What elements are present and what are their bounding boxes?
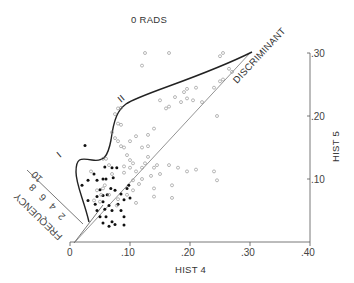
open-point xyxy=(117,122,120,125)
open-point xyxy=(213,86,216,89)
open-point xyxy=(135,135,138,138)
open-point xyxy=(123,171,126,174)
open-point xyxy=(195,168,198,171)
filled-point xyxy=(123,198,126,201)
open-point xyxy=(201,101,204,104)
open-point xyxy=(213,170,216,173)
open-point xyxy=(156,164,159,167)
filled-point xyxy=(99,215,102,218)
filled-point xyxy=(109,187,112,190)
open-point xyxy=(126,154,129,157)
open-point xyxy=(171,196,174,199)
open-point xyxy=(195,86,198,89)
filled-point xyxy=(111,209,114,212)
open-point xyxy=(147,155,150,158)
filled-point xyxy=(120,209,123,212)
filled-point xyxy=(81,184,84,187)
filled-point xyxy=(123,215,126,218)
y-tick-label: .10 xyxy=(311,174,325,185)
open-point xyxy=(135,170,138,173)
filled-point xyxy=(108,204,111,207)
open-point xyxy=(102,187,105,190)
filled-point xyxy=(111,166,114,169)
filled-point xyxy=(102,194,105,197)
open-point xyxy=(141,64,144,67)
open-point xyxy=(123,146,126,149)
open-point xyxy=(99,200,102,203)
open-point xyxy=(174,96,177,99)
open-point xyxy=(120,123,123,126)
open-point xyxy=(159,173,162,176)
filled-point xyxy=(93,173,96,176)
open-point xyxy=(108,164,111,167)
open-point xyxy=(103,184,106,187)
curve-label-ii: II xyxy=(115,92,127,104)
open-point xyxy=(129,140,132,143)
open-point xyxy=(165,107,168,110)
filled-point xyxy=(99,188,102,191)
open-point xyxy=(186,97,189,100)
open-point xyxy=(159,99,162,102)
filled-point xyxy=(105,215,108,218)
open-point xyxy=(186,170,189,173)
open-point xyxy=(120,145,123,148)
open-point xyxy=(228,67,231,70)
open-point xyxy=(168,52,171,55)
open-point xyxy=(219,55,222,58)
x-tick-label: .20 xyxy=(181,247,195,258)
open-point xyxy=(141,178,144,181)
x-tick-label: .30 xyxy=(241,247,255,258)
chart-title: 0 RADS xyxy=(131,14,167,25)
open-point xyxy=(222,52,225,55)
open-point xyxy=(192,99,195,102)
open-point xyxy=(180,101,183,104)
x-axis-label: HIST 4 xyxy=(175,264,206,275)
filled-point xyxy=(96,195,99,198)
open-point xyxy=(222,78,225,81)
open-point xyxy=(129,166,132,169)
open-point xyxy=(117,107,120,110)
discriminant-line xyxy=(74,53,250,243)
filled-point xyxy=(114,189,117,192)
open-point xyxy=(141,166,144,169)
open-point xyxy=(168,164,171,167)
filled-point xyxy=(127,184,130,187)
open-point xyxy=(126,193,129,196)
x-tick-label: .10 xyxy=(121,247,135,258)
open-point xyxy=(93,199,96,202)
filled-point xyxy=(105,178,108,181)
open-point xyxy=(144,162,147,165)
x-tick-label: 0 xyxy=(67,247,73,258)
frequency-tick-label: 2 xyxy=(55,210,67,222)
filled-point xyxy=(96,209,99,212)
filled-point xyxy=(126,187,129,190)
y-tick-label: .20 xyxy=(311,111,325,122)
y-axis: .30 .20 .10 HIST 5 xyxy=(307,48,341,242)
filled-point xyxy=(87,179,90,182)
open-point xyxy=(216,179,219,182)
open-point xyxy=(183,91,186,94)
open-point xyxy=(129,159,132,162)
open-point xyxy=(147,145,150,148)
data-points xyxy=(81,52,234,228)
discriminant-label: DISCRIMINANT xyxy=(230,25,287,85)
filled-point xyxy=(114,223,117,226)
open-point xyxy=(186,87,189,90)
filled-point xyxy=(129,196,132,199)
frequency-tick-label: 6 xyxy=(36,191,48,203)
frequency-tick-label: 4 xyxy=(46,200,58,212)
filled-point xyxy=(102,222,105,225)
filled-point xyxy=(123,224,126,227)
open-point xyxy=(96,189,99,192)
open-point xyxy=(153,187,156,190)
filled-point xyxy=(108,225,111,228)
open-point xyxy=(105,157,108,160)
open-point xyxy=(144,52,147,55)
open-point xyxy=(153,195,156,198)
open-point xyxy=(219,80,222,83)
open-point xyxy=(141,146,144,149)
open-point xyxy=(150,174,153,177)
x-axis: 0 .10 .20 .30 .40 HIST 4 xyxy=(67,242,315,275)
open-point xyxy=(138,183,141,186)
open-point xyxy=(171,184,174,187)
